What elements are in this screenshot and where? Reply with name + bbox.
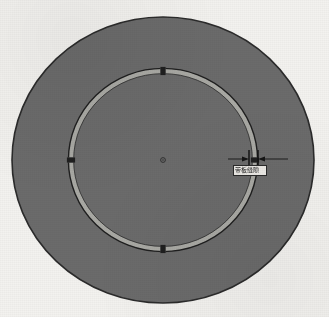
engineering-drawing (0, 0, 329, 317)
dimension-label: 带板缝隙 (233, 165, 267, 176)
ring-gap-left (67, 157, 75, 162)
ring-gap-bottom (160, 245, 165, 253)
drawing-canvas: 带板缝隙 (0, 0, 329, 317)
ring-gap-top (160, 67, 165, 75)
